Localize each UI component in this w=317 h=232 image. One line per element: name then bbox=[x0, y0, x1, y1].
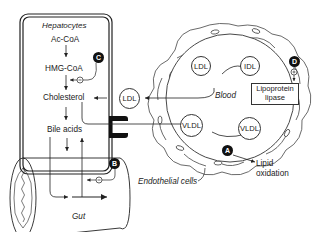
lipid-metabolism-diagram: Hepatocytes Ac-CoA HMG-CoA Cholesterol B… bbox=[0, 0, 317, 232]
ldl-particle: LDL bbox=[191, 56, 211, 76]
ac-coa-label: Ac-CoA bbox=[51, 36, 79, 44]
vldl-particle-right: VLDL bbox=[238, 117, 261, 140]
marker-b: B bbox=[109, 158, 120, 169]
lipoprotein-lipase-box: Lipoprotein lipase bbox=[251, 83, 299, 105]
gut-label: Gut bbox=[72, 213, 85, 221]
lipid-oxidation-label: Lipid oxidation bbox=[256, 159, 292, 179]
diagram-lines bbox=[0, 0, 317, 232]
hmg-coa-label: HMG-CoA bbox=[45, 65, 83, 73]
vldl-particle-left: VLDL bbox=[180, 114, 203, 137]
endothelial-cells-label: Endothelial cells bbox=[138, 178, 197, 186]
blood-label: Blood bbox=[215, 92, 236, 100]
marker-a: A bbox=[222, 145, 233, 156]
ldl-receptor-particle: LDL bbox=[119, 88, 140, 109]
idl-particle: IDL bbox=[240, 56, 260, 76]
cholesterol-label: Cholesterol bbox=[43, 94, 84, 102]
bile-acids-label: Bile acids bbox=[47, 126, 82, 134]
marker-c: C bbox=[93, 52, 104, 63]
hepatocytes-title: Hepatocytes bbox=[42, 22, 86, 30]
marker-d: D bbox=[289, 56, 300, 67]
